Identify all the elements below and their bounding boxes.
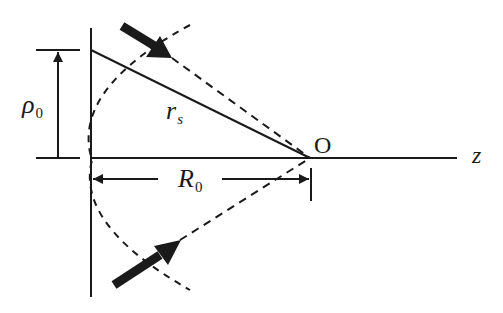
lower-incident-arrow-icon bbox=[114, 240, 181, 285]
rs-line bbox=[91, 50, 310, 158]
r0-subscript: 0 bbox=[195, 179, 203, 195]
r0-symbol: R bbox=[178, 164, 194, 193]
z-axis-label: z bbox=[472, 143, 481, 167]
origin-label: O bbox=[314, 133, 331, 157]
rs-symbol: r bbox=[166, 96, 176, 125]
upper-incident-arrow-icon bbox=[122, 26, 172, 58]
rs-label: rs bbox=[166, 98, 183, 124]
rs-subscript: s bbox=[177, 111, 183, 127]
r0-label: R0 bbox=[178, 166, 202, 192]
geometry-diagram bbox=[0, 0, 503, 313]
upper-dashed-ray bbox=[172, 58, 310, 158]
rho-subscript: 0 bbox=[35, 105, 43, 121]
rho-symbol: ρ bbox=[22, 90, 34, 119]
rho0-label: ρ0 bbox=[22, 92, 43, 118]
